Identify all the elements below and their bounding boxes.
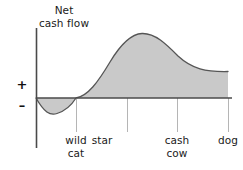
stage-label-wildcat-line2: cat bbox=[48, 147, 104, 160]
positive-axis-label: + bbox=[15, 78, 29, 91]
cash-flow-chart-figure: Net cash flow + – wild cat star cash cow… bbox=[0, 0, 243, 170]
y-axis-title: Net cash flow bbox=[22, 4, 106, 29]
stage-label-cashcow-line1: cash bbox=[165, 134, 190, 146]
negative-axis-label: – bbox=[15, 99, 29, 112]
stage-label-dog: dog bbox=[200, 134, 243, 147]
stage-label-cashcow-line2: cow bbox=[149, 147, 205, 160]
stage-label-cashcow: cash cow bbox=[149, 134, 205, 159]
cash-flow-area-fill-positive bbox=[76, 33, 228, 98]
y-axis-title-line2: cash flow bbox=[39, 17, 89, 29]
stage-label-star-line1: star bbox=[92, 134, 113, 146]
stage-label-dog-line1: dog bbox=[218, 134, 238, 146]
y-axis-title-line1: Net bbox=[55, 4, 74, 16]
stage-label-star: star bbox=[74, 134, 130, 147]
